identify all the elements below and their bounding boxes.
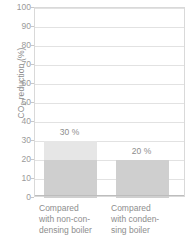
y-tick-mark [31, 197, 34, 198]
y-tick-label: 50 [3, 98, 31, 107]
x-axis-label-line: Compared [111, 203, 159, 214]
x-axis-label: Comparedwith conden-sing boiler [111, 203, 159, 236]
gridline [35, 8, 184, 9]
x-axis-label-line: with non-con- [39, 214, 92, 225]
y-tick-label: 90 [3, 22, 31, 31]
x-axis-line [35, 195, 184, 196]
y-tick-label: 80 [3, 41, 31, 50]
y-tick-label: 10 [3, 174, 31, 183]
y-tick-label: 70 [3, 60, 31, 69]
x-axis-label: Comparedwith non-con-densing boiler [39, 203, 92, 236]
y-tick-label: 100 [3, 3, 31, 12]
y-tick-label: 60 [3, 79, 31, 88]
gridline [35, 103, 184, 104]
plot-area [34, 7, 185, 197]
bar-segment-lower [116, 160, 169, 198]
gridline [35, 122, 184, 123]
gridline [35, 65, 184, 66]
y-tick-label: 40 [3, 117, 31, 126]
y-tick-label: 0 [3, 193, 31, 202]
bar [116, 160, 169, 198]
y-tick-label: 20 [3, 155, 31, 164]
bar-segment-lower [44, 160, 97, 198]
bar-segment-upper [44, 141, 97, 160]
x-axis-label-line: densing boiler [39, 225, 92, 236]
x-axis-label-line: with conden- [111, 214, 159, 225]
gridline [35, 46, 184, 47]
bar [44, 141, 97, 198]
x-axis-label-line: sing boiler [111, 225, 159, 236]
co2-reduction-bar-chart: CO2 reduction (%) 1009080706050403020100… [0, 0, 189, 238]
y-tick-label: 30 [3, 136, 31, 145]
bar-value-label: 30 % [43, 128, 96, 137]
bar-value-label: 20 % [115, 147, 168, 156]
x-axis-label-line: Compared [39, 203, 92, 214]
y-axis-ticks: 1009080706050403020100 [0, 0, 31, 198]
gridline [35, 27, 184, 28]
gridline [35, 84, 184, 85]
